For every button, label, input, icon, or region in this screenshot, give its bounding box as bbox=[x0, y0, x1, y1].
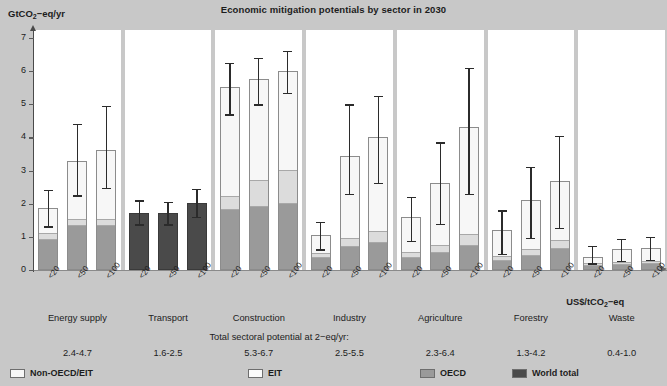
legend-item-non-oecd-eit: Non-OECD/EIT bbox=[10, 368, 93, 378]
legend-swatch bbox=[512, 369, 527, 378]
error-bar-line bbox=[258, 58, 259, 104]
error-bar-cap-upper bbox=[44, 190, 53, 191]
legend-item-oecd: OECD bbox=[420, 368, 466, 378]
error-bar-line bbox=[468, 68, 469, 194]
segment-eit bbox=[279, 170, 297, 203]
segment-eit bbox=[250, 180, 268, 207]
y-tick-mark bbox=[29, 171, 34, 172]
error-bar-cap-upper bbox=[407, 197, 416, 198]
error-bar-cap-upper bbox=[345, 104, 354, 105]
sector-name-label: Construction bbox=[215, 313, 302, 323]
segment-eit bbox=[369, 231, 387, 243]
y-tick-mark bbox=[29, 137, 34, 138]
error-bar-line bbox=[196, 189, 197, 217]
error-bar-cap-upper bbox=[374, 96, 383, 97]
error-bar-line bbox=[592, 246, 593, 263]
error-bar-cap-upper bbox=[617, 239, 626, 240]
segment-eit bbox=[68, 219, 86, 225]
error-bar-line bbox=[320, 222, 321, 250]
y-axis-arrow-icon bbox=[30, 25, 36, 31]
sector-total-value: 0.4-1.0 bbox=[578, 348, 665, 358]
sector-total-value: 1.3-4.2 bbox=[488, 348, 575, 358]
sector-name-label: Industry bbox=[306, 313, 393, 323]
y-tick-mark bbox=[29, 237, 34, 238]
legend-swatch bbox=[248, 369, 263, 378]
chart-title: Economic mitigation potentials by sector… bbox=[0, 4, 667, 15]
error-bar-cap-upper bbox=[192, 189, 201, 190]
sector-total-value: 5.3-6.7 bbox=[215, 348, 302, 358]
sector-name-label: Transport bbox=[125, 313, 212, 323]
segment-eit bbox=[312, 253, 330, 257]
y-tick-label: 3 bbox=[6, 165, 26, 175]
error-bar-line bbox=[48, 190, 49, 226]
segment-oecd bbox=[250, 206, 268, 269]
error-bar-cap-lower bbox=[225, 114, 234, 115]
error-bar-cap-upper bbox=[465, 68, 474, 69]
segment-oecd bbox=[279, 203, 297, 269]
sector-name-label: Waste bbox=[578, 313, 665, 323]
y-tick-label: 6 bbox=[6, 65, 26, 75]
error-bar-cap-lower bbox=[254, 104, 263, 105]
x-axis-units-label: US$/tCO2−eq bbox=[566, 297, 624, 308]
error-bar-line bbox=[621, 239, 622, 261]
y-tick-mark bbox=[29, 71, 34, 72]
error-bar-cap-upper bbox=[225, 63, 234, 64]
error-bar-cap-upper bbox=[164, 202, 173, 203]
error-bar-cap-lower bbox=[316, 249, 325, 250]
error-bar-cap-lower bbox=[588, 263, 597, 264]
y-tick-label: 5 bbox=[6, 98, 26, 108]
error-bar-cap-lower bbox=[374, 183, 383, 184]
sector-total-value: 2.5-5.5 bbox=[306, 348, 393, 358]
legend-item-eit: EIT bbox=[248, 368, 282, 378]
error-bar-cap-lower bbox=[192, 217, 201, 218]
error-bar-cap-lower bbox=[102, 188, 111, 189]
segment-eit bbox=[493, 256, 511, 260]
error-bar-cap-upper bbox=[283, 51, 292, 52]
segment-eit bbox=[431, 245, 449, 252]
y-tick-label: 0 bbox=[6, 264, 26, 274]
error-bar-line bbox=[378, 96, 379, 183]
sector-name-label: Energy supply bbox=[34, 313, 121, 323]
error-bar-cap-lower bbox=[617, 261, 626, 262]
error-bar-line bbox=[106, 106, 107, 188]
error-bar-cap-upper bbox=[436, 142, 445, 143]
y-tick-label: 7 bbox=[6, 32, 26, 42]
error-bar-line bbox=[530, 167, 531, 238]
segment-eit bbox=[97, 219, 115, 225]
error-bar-cap-upper bbox=[646, 237, 655, 238]
error-bar-line bbox=[167, 202, 168, 224]
error-bar-cap-lower bbox=[526, 238, 535, 239]
sector-name-label: Agriculture bbox=[397, 313, 484, 323]
y-tick-label: 1 bbox=[6, 231, 26, 241]
segment-eit bbox=[551, 240, 569, 248]
segment-eit bbox=[460, 234, 478, 246]
error-bar-cap-lower bbox=[498, 254, 507, 255]
error-bar-cap-upper bbox=[588, 246, 597, 247]
error-bar-cap-lower bbox=[407, 241, 416, 242]
error-bar-cap-upper bbox=[102, 106, 111, 107]
error-bar-cap-upper bbox=[135, 200, 144, 201]
legend-label: Non-OECD/EIT bbox=[30, 368, 93, 378]
error-bar-line bbox=[411, 197, 412, 241]
bar-construction-<50 bbox=[249, 79, 269, 270]
error-bar-line bbox=[77, 124, 78, 195]
error-bar-cap-upper bbox=[555, 136, 564, 137]
sector-name-label: Forestry bbox=[488, 313, 575, 323]
segment-eit bbox=[39, 233, 57, 239]
error-bar-line bbox=[287, 51, 288, 93]
segment-eit bbox=[341, 238, 359, 246]
error-bar-cap-lower bbox=[73, 195, 82, 196]
y-axis-line bbox=[33, 30, 34, 272]
sector-total-value: 2.4-4.7 bbox=[34, 348, 121, 358]
legend-swatch bbox=[420, 369, 435, 378]
error-bar-line bbox=[139, 200, 140, 224]
legend-label: OECD bbox=[440, 368, 466, 378]
y-tick-mark bbox=[29, 104, 34, 105]
error-bar-cap-upper bbox=[316, 222, 325, 223]
error-bar-cap-lower bbox=[44, 226, 53, 227]
sector-total-value: 2.3-6.4 bbox=[397, 348, 484, 358]
error-bar-line bbox=[559, 136, 560, 228]
error-bar-line bbox=[650, 237, 651, 260]
error-bar-cap-lower bbox=[465, 194, 474, 195]
chart-legend: Non-OECD/EITEITOECDWorld total bbox=[0, 366, 667, 382]
